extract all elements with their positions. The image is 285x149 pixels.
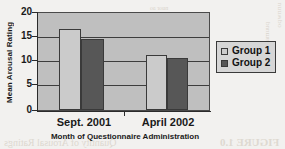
legend-label-group-2: Group 2 [232,58,270,68]
x-category-label-april-2002: April 2002 [128,116,208,128]
light-gray-swatch-icon [221,48,228,55]
y-tick-label-5: 5 [1,79,32,89]
y-tick-20 [32,12,37,13]
y-tick-10 [32,60,37,61]
y-tick-label-10: 10 [1,55,32,65]
y-tick-label-20: 20 [1,7,32,17]
bar-chart: Mean Arousal Rating 20 15 10 [0,0,285,149]
bar-group1-sept-2001[interactable] [59,29,81,110]
bar-group2-april-2002[interactable] [167,58,188,110]
x-tick-divider [124,112,125,116]
bar-group1-april-2002[interactable] [146,55,167,110]
chart-screenshot: oqwnnu uamuuq nuor ao mo nomo Quantity o… [0,0,285,149]
legend-label-group-1: Group 1 [232,46,270,56]
legend-item-group-2[interactable]: Group 2 [221,57,270,69]
legend-item-group-1[interactable]: Group 1 [221,45,270,57]
x-axis-title: Month of Questionnaire Administration [0,132,250,141]
plot-area [37,12,210,111]
y-tick-label-15: 15 [1,31,32,41]
y-tick-5 [32,84,37,85]
y-tick-label-0: 0 [1,105,32,115]
bar-group2-sept-2001[interactable] [81,39,104,110]
x-category-label-sept-2001: Sept. 2001 [44,116,124,128]
y-axis-line [37,12,38,112]
dark-gray-swatch-icon [221,60,228,67]
y-tick-15 [32,36,37,37]
legend: Group 1 Group 2 [216,41,276,73]
y-tick-0 [32,110,37,111]
